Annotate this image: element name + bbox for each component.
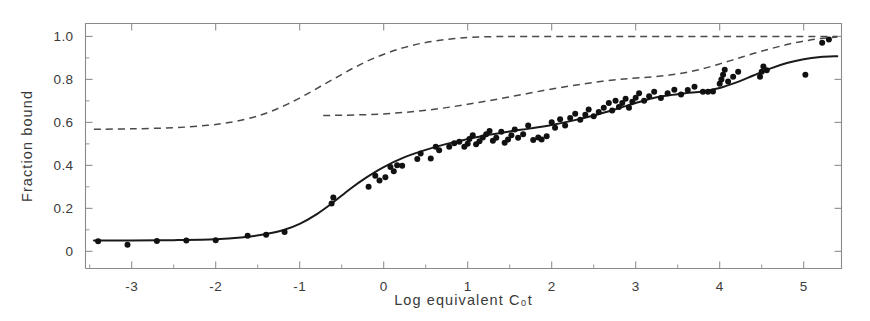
data-point: [245, 233, 251, 239]
y-tick-label: 0.8: [54, 72, 74, 87]
data-point: [414, 156, 420, 162]
data-point: [626, 105, 632, 111]
data-point: [493, 135, 499, 141]
data-point: [671, 87, 677, 93]
data-point: [95, 238, 101, 244]
data-point: [601, 105, 607, 111]
data-point: [582, 112, 588, 118]
data-point: [636, 90, 642, 96]
y-axis-tick-labels: 00.20.40.60.81.0: [54, 29, 74, 259]
data-point: [596, 109, 602, 115]
x-tick-label: 2: [548, 279, 556, 294]
data-point: [557, 116, 563, 122]
data-point: [764, 67, 770, 73]
data-point: [382, 174, 388, 180]
y-tick-label: 0.4: [54, 158, 74, 173]
x-tick-label: -1: [293, 279, 306, 294]
y-tick-label: 1.0: [54, 29, 74, 44]
data-point: [802, 72, 808, 78]
data-point: [757, 74, 763, 80]
data-point: [586, 106, 592, 112]
data-point: [512, 126, 518, 132]
data-point: [428, 155, 434, 161]
data-point: [641, 98, 647, 104]
data-point: [591, 113, 597, 119]
data-point: [623, 96, 629, 102]
data-point: [613, 98, 619, 104]
x-tick-label: -2: [209, 279, 222, 294]
data-point: [418, 151, 424, 157]
data-point: [125, 242, 131, 248]
data-point: [399, 163, 405, 169]
data-point: [282, 229, 288, 235]
y-tick-label: 0: [66, 244, 74, 259]
data-point: [567, 115, 573, 121]
data-point: [456, 139, 462, 145]
data-points: [95, 37, 832, 248]
data-point: [678, 91, 684, 97]
axis-titles: Log equivalent C₀tFraction bound: [19, 90, 533, 308]
data-point: [539, 137, 545, 143]
data-point: [826, 37, 832, 43]
x-tick-label: 5: [800, 279, 808, 294]
data-point: [372, 173, 378, 179]
data-point: [498, 129, 504, 135]
data-point: [213, 237, 219, 243]
data-point: [725, 79, 731, 85]
data-point: [710, 88, 716, 94]
data-point: [520, 131, 526, 137]
data-point: [154, 238, 160, 244]
y-tick-label: 0.2: [54, 201, 74, 216]
data-point: [552, 125, 558, 131]
data-point: [377, 177, 383, 183]
data-point: [735, 69, 741, 75]
data-point: [436, 147, 442, 153]
data-point: [692, 84, 698, 90]
data-point: [722, 67, 728, 73]
data-point: [263, 232, 269, 238]
data-point: [544, 133, 550, 139]
data-point: [759, 69, 765, 75]
data-point: [609, 108, 615, 114]
data-point: [329, 200, 335, 206]
data-point: [665, 90, 671, 96]
data-point: [685, 87, 691, 93]
data-point: [549, 119, 555, 125]
x-tick-label: 4: [716, 279, 724, 294]
x-tick-label: -3: [125, 279, 138, 294]
y-axis-title: Fraction bound: [19, 90, 35, 202]
data-point: [446, 144, 452, 150]
y-tick-label: 0.6: [54, 115, 74, 130]
x-axis-title: Log equivalent C₀t: [394, 292, 533, 308]
data-point: [819, 40, 825, 46]
data-point: [183, 238, 189, 244]
figure-container: -3-2-1012345 00.20.40.60.81.0 Log equiva…: [0, 0, 870, 321]
x-tick-label: 0: [380, 279, 388, 294]
data-point: [646, 93, 652, 99]
data-point: [730, 74, 736, 80]
data-point: [330, 195, 336, 201]
data-point: [487, 128, 493, 134]
data-point: [572, 111, 578, 117]
data-point: [606, 100, 612, 106]
data-point: [577, 117, 583, 123]
data-point: [508, 132, 514, 138]
data-point: [651, 89, 657, 95]
data-point: [470, 132, 476, 138]
data-point: [515, 135, 521, 141]
data-point: [366, 184, 372, 190]
chart-canvas: -3-2-1012345 00.20.40.60.81.0 Log equiva…: [0, 0, 870, 321]
x-tick-label: 3: [632, 279, 640, 294]
data-point: [562, 123, 568, 129]
data-point: [658, 95, 664, 101]
data-point: [391, 168, 397, 174]
data-point: [525, 123, 531, 129]
